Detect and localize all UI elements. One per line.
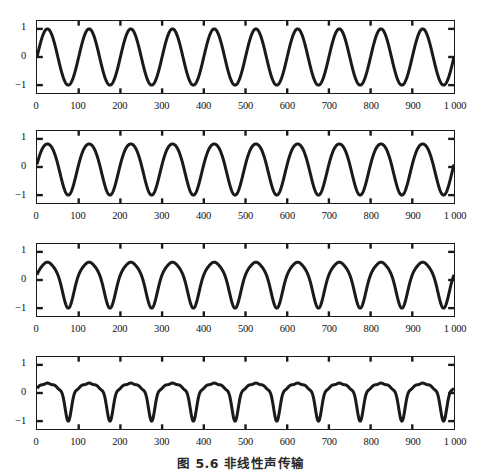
x-tick-label: 700 xyxy=(322,436,337,447)
x-tick-label: 300 xyxy=(154,436,169,447)
x-tick-label: 0 xyxy=(33,436,38,447)
figure-caption: 图 5.6 非线性声传输 xyxy=(0,453,482,472)
x-tick-label: 400 xyxy=(196,436,211,447)
y-tick-label: 1 xyxy=(21,358,26,369)
tick-marks-4 xyxy=(37,357,454,429)
plot-frame-4 xyxy=(36,356,455,430)
x-tick-label: 600 xyxy=(280,436,295,447)
x-axis-labels-4: 01002003004005006007008009001 000 xyxy=(0,436,482,450)
figure-nonlinear-acoustic-propagation: 10−101002003004005006007008009001 000 10… xyxy=(0,0,482,474)
x-tick-label: 500 xyxy=(238,436,253,447)
waveform-path-4 xyxy=(37,383,454,421)
x-tick-label: 900 xyxy=(406,436,421,447)
x-tick-label: 800 xyxy=(364,436,379,447)
chart-panel-4: 10−101002003004005006007008009001 000 xyxy=(0,0,482,474)
y-tick-label: −1 xyxy=(15,416,26,427)
y-axis-labels-4: 10−1 xyxy=(0,356,30,430)
x-tick-label: 1 000 xyxy=(444,436,467,447)
y-tick-label: 0 xyxy=(21,387,26,398)
x-tick-label: 100 xyxy=(70,436,85,447)
x-tick-label: 200 xyxy=(112,436,127,447)
